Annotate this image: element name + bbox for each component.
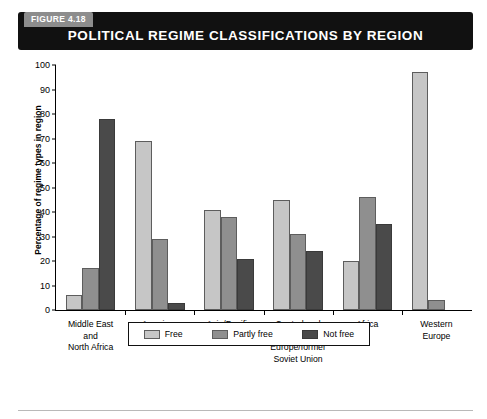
legend-item-partly: Partly free (212, 329, 273, 339)
bar-free (273, 200, 290, 310)
y-axis-tick-mark (52, 310, 56, 311)
x-axis-category-label-line: Europe (402, 331, 471, 343)
x-axis-category-label: WesternEurope (402, 319, 471, 342)
bar-partly (152, 239, 169, 310)
legend-item-notfree: Not free (302, 329, 354, 339)
x-axis-tick-mark (125, 310, 126, 315)
bar-partly (428, 300, 445, 310)
y-axis-tick-mark (52, 114, 56, 115)
bar-free (135, 141, 152, 310)
bottom-divider (18, 410, 473, 411)
y-axis-tick-mark (52, 163, 56, 164)
x-axis-category-label-line: Western (402, 319, 471, 331)
bar-free (204, 210, 221, 310)
bar-partly (221, 217, 238, 310)
x-axis-category-label: Middle EastandNorth Africa (56, 319, 125, 354)
y-axis-tick-mark (52, 261, 56, 262)
legend-label-partly: Partly free (233, 329, 273, 339)
legend-label-notfree: Not free (323, 329, 354, 339)
bar-notfree (237, 259, 254, 310)
legend-item-free: Free (144, 329, 183, 339)
figure-number-tag: FIGURE 4.18 (24, 12, 93, 27)
y-axis-tick-mark (52, 187, 56, 188)
x-axis-category-label-line: Middle East (56, 319, 125, 331)
y-axis-tick-mark (52, 285, 56, 286)
legend-swatch-partly (212, 330, 228, 339)
bar-partly (82, 268, 99, 310)
bar-notfree (376, 224, 393, 310)
legend-swatch-notfree (302, 330, 318, 339)
legend-label-free: Free (165, 329, 183, 339)
bar-partly (359, 197, 376, 310)
legend-swatch-free (144, 330, 160, 339)
x-axis-tick-mark (333, 310, 334, 315)
x-axis-tick-mark (264, 310, 265, 315)
x-axis-tick-mark (194, 310, 195, 315)
x-axis-category-label-line: Soviet Union (264, 354, 333, 366)
y-axis-tick-mark (52, 89, 56, 90)
chart-area: Percentage of regime types in region 010… (0, 55, 487, 419)
bar-free (66, 295, 83, 310)
figure-title: POLITICAL REGIME CLASSIFICATIONS BY REGI… (18, 28, 473, 43)
bar-notfree (168, 303, 185, 310)
bar-partly (290, 234, 307, 310)
plot-region: 0102030405060708090100 (56, 65, 471, 310)
bar-free (343, 261, 360, 310)
bar-notfree (99, 119, 116, 310)
bar-free (412, 72, 429, 310)
y-axis-tick-mark (52, 138, 56, 139)
y-axis-tick-mark (52, 65, 56, 66)
x-axis-category-label-line: North Africa (56, 342, 125, 354)
bar-notfree (306, 251, 323, 310)
y-axis-tick-mark (52, 212, 56, 213)
x-axis-category-label-line: and (56, 331, 125, 343)
y-axis-tick-mark (52, 236, 56, 237)
chart-legend: FreePartly freeNot free (128, 322, 370, 346)
x-axis-tick-mark (402, 310, 403, 315)
